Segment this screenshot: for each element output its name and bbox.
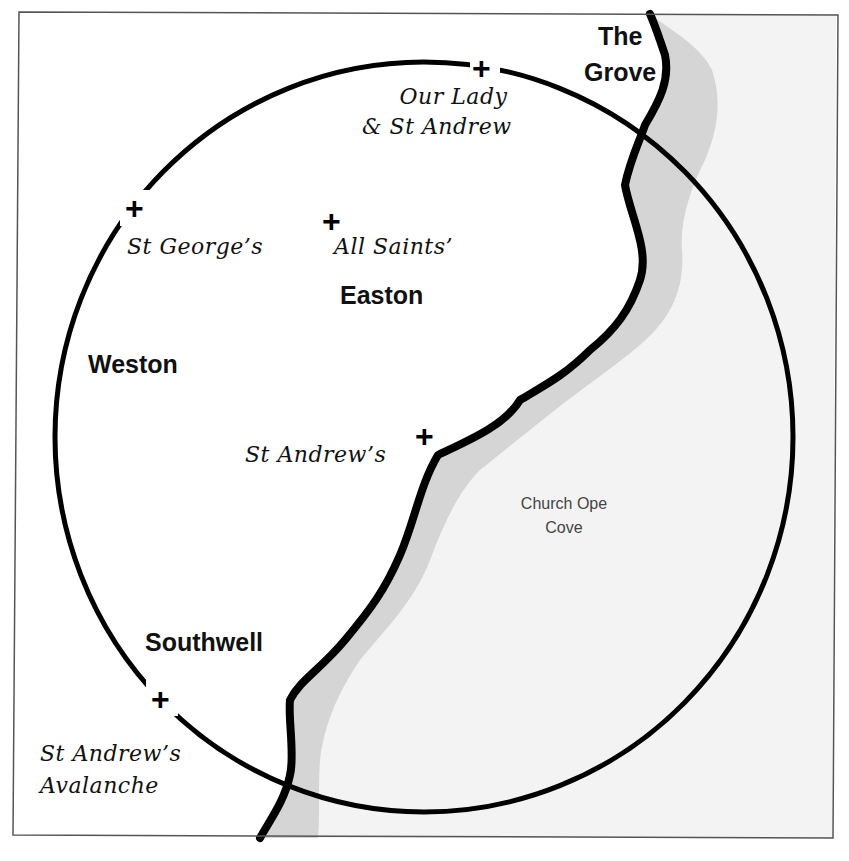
town-label-southwell: Southwell: [145, 628, 263, 657]
map: + + + + + The Grove Easton Weston Southw…: [0, 0, 849, 861]
cross-icon: +: [151, 683, 170, 715]
church-label-all-saints: All Saints’: [334, 234, 453, 259]
cross-icon: +: [322, 205, 341, 237]
sea-label-church-ope-cove: Church Ope Cove: [504, 492, 624, 540]
church-label-st-andrews-avalanche: St Andrew’s Avalanche: [40, 738, 181, 802]
town-label-weston: Weston: [88, 350, 178, 379]
sea-area: [260, 14, 836, 838]
town-label-the-grove: The Grove: [584, 18, 656, 90]
church-label-st-andrews: St Andrew’s: [245, 442, 386, 467]
cross-icon: +: [125, 192, 144, 224]
cross-icon: +: [472, 52, 491, 84]
cross-icon: +: [415, 420, 434, 452]
church-label-our-lady-st-andrew: Our Lady & St Andrew: [362, 82, 512, 142]
town-label-easton: Easton: [340, 281, 423, 310]
church-label-st-georges: St George’s: [127, 234, 263, 259]
